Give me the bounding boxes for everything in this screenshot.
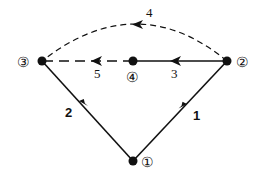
node-label-2: ② xyxy=(236,54,249,70)
node-2: ② xyxy=(223,54,250,70)
edge-2: 2 xyxy=(42,61,133,161)
node-label-4: ④ xyxy=(126,69,139,85)
edge-label-2: 2 xyxy=(65,105,72,120)
edge-label-1: 1 xyxy=(193,108,200,123)
edge-label-5: 5 xyxy=(94,66,101,81)
node-label-3: ③ xyxy=(17,54,30,70)
node-3: ③ xyxy=(17,54,47,70)
edge-3: 3 xyxy=(133,56,227,81)
node-label-1: ① xyxy=(141,154,154,170)
edge-label-3: 3 xyxy=(171,66,178,81)
graph-diagram: 1 2 3 5 4 ① ② ③ ④ xyxy=(0,0,268,185)
edge-5: 5 xyxy=(42,56,133,81)
edge-4: 4 xyxy=(42,5,227,61)
node-1: ① xyxy=(129,154,155,170)
edge-1: 1 xyxy=(133,61,227,161)
edge-label-4: 4 xyxy=(146,5,153,20)
